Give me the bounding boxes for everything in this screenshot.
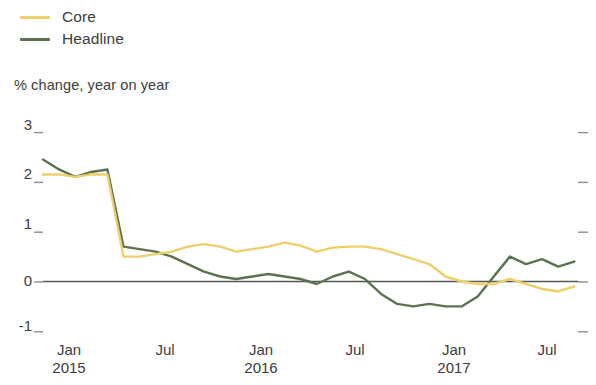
plot-area [0,0,596,385]
x-tick-label-jan-2017: Jan 2017 [422,341,486,376]
x-tick-label-jul-2016: Jul [325,341,385,359]
y-tick-label-neg1: -1 [4,318,32,333]
plot-svg [0,0,596,385]
y-tick-label-2: 2 [10,166,32,181]
x-tick-label-jan-2016: Jan 2016 [229,341,293,376]
y-tick-label-3: 3 [10,117,32,132]
y-axis-ticks-right [578,133,588,332]
inflation-line-chart: Core Headline % change, year on year 3 2… [0,0,596,385]
x-tick-label-jul-2017: Jul [517,341,577,359]
y-axis-ticks-left [34,133,43,332]
y-tick-label-1: 1 [10,216,32,231]
x-tick-label-jan-2015: Jan 2015 [37,341,101,376]
x-tick-label-jul-2015: Jul [135,341,195,359]
y-tick-label-0: 0 [10,273,32,288]
